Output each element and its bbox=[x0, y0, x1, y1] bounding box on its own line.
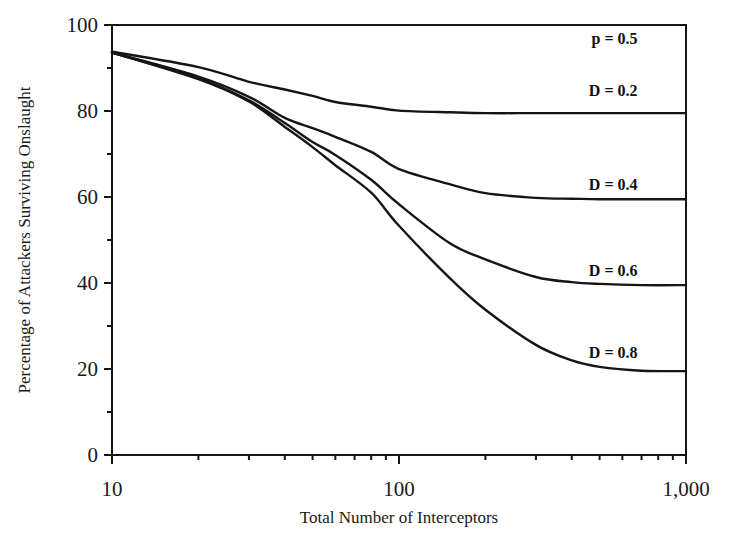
x-tick-label: 10 bbox=[102, 477, 123, 501]
curve-annotation: D = 0.6 bbox=[589, 262, 638, 279]
curves bbox=[112, 52, 686, 371]
x-axis-label: Total Number of Interceptors bbox=[300, 508, 499, 527]
y-tick-label: 0 bbox=[88, 443, 99, 467]
y-tick-label: 80 bbox=[77, 99, 98, 123]
chart: 101001,000020406080100 p = 0.5D = 0.2D =… bbox=[0, 0, 729, 543]
curve-annotation: p = 0.5 bbox=[592, 30, 638, 48]
curve-annotation: D = 0.8 bbox=[589, 344, 638, 361]
y-tick-label: 100 bbox=[67, 13, 99, 37]
x-tick-label: 1,000 bbox=[662, 477, 709, 501]
y-tick-label: 20 bbox=[77, 357, 98, 381]
x-tick-label: 100 bbox=[383, 477, 415, 501]
annotations: p = 0.5D = 0.2D = 0.4D = 0.6D = 0.8 bbox=[589, 30, 638, 361]
y-axis-label: Percentage of Attackers Surviving Onslau… bbox=[15, 86, 34, 393]
series-line-d-0-8 bbox=[112, 53, 686, 372]
y-tick-label: 40 bbox=[77, 271, 98, 295]
curve-annotation: D = 0.4 bbox=[589, 176, 638, 193]
y-tick-label: 60 bbox=[77, 185, 98, 209]
curve-annotation: D = 0.2 bbox=[589, 82, 638, 99]
